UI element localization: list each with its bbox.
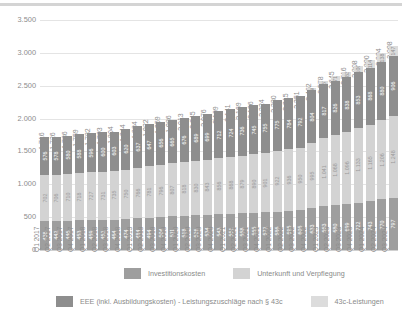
bar-segment[interactable]: 868 bbox=[226, 157, 235, 214]
bar-segment[interactable]: 138 bbox=[377, 53, 386, 62]
bar-segment[interactable]: 736 bbox=[238, 107, 247, 155]
bar-segment[interactable]: 1.133 bbox=[354, 128, 363, 202]
bar-segment[interactable]: 596 bbox=[87, 133, 96, 172]
bar-segment[interactable]: 792 bbox=[296, 96, 305, 148]
bar-segment[interactable]: 718 bbox=[75, 173, 84, 220]
bar-segment[interactable]: 1.206 bbox=[377, 120, 386, 199]
bar-column[interactable]: 1.716576702438 bbox=[40, 20, 49, 250]
bar-column[interactable]: 2.9941388801.206770 bbox=[377, 20, 386, 250]
bar-segment[interactable]: 818 bbox=[180, 162, 189, 216]
bar-segment[interactable]: 706 bbox=[52, 175, 61, 221]
bar-column[interactable]: 1.884637766484 bbox=[133, 20, 142, 250]
bar-column[interactable]: 2.169736879558 bbox=[238, 20, 247, 250]
bar-segment[interactable]: 689 bbox=[191, 116, 200, 161]
bar-column[interactable]: 1.844620750474 bbox=[121, 20, 130, 250]
bar-segment[interactable]: 588 bbox=[75, 134, 84, 173]
bar-segment[interactable]: 1.248 bbox=[389, 116, 398, 198]
bar-segment[interactable]: 879 bbox=[238, 156, 247, 214]
bar-column[interactable]: 2.8901148681.165743 bbox=[366, 20, 375, 250]
bar-column[interactable]: 1.959656796504 bbox=[156, 20, 165, 250]
bar-segment[interactable]: 890 bbox=[249, 154, 258, 212]
bar-column[interactable]: 1.736580710446 bbox=[63, 20, 72, 250]
bar-column[interactable]: 2.141724868551 bbox=[226, 20, 235, 250]
bar-column[interactable]: 2.196745890565 bbox=[249, 20, 258, 250]
bar-segment[interactable]: 781 bbox=[145, 166, 154, 217]
bar-segment[interactable]: 620 bbox=[121, 129, 130, 170]
bar-segment[interactable]: 712 bbox=[214, 111, 223, 158]
bar-column[interactable]: 2.280775922586 bbox=[273, 20, 282, 250]
bar-segment[interactable]: 995 bbox=[307, 143, 316, 208]
legend-item-investitionskosten[interactable]: Investitionskosten bbox=[124, 268, 205, 279]
bar-segment[interactable]: 656 bbox=[156, 122, 165, 165]
bar-segment[interactable]: 843 bbox=[203, 160, 212, 215]
bar-segment[interactable]: 665 bbox=[168, 120, 177, 164]
bar-column[interactable]: 1.922647781494 bbox=[145, 20, 154, 250]
bar-segment[interactable]: 1.068 bbox=[331, 135, 340, 205]
bar-segment[interactable]: 727 bbox=[87, 172, 96, 220]
bar-segment[interactable]: 710 bbox=[63, 174, 72, 221]
bar-segment[interactable]: 724 bbox=[226, 109, 235, 157]
bar-segment[interactable]: 880 bbox=[377, 62, 386, 120]
bar-segment[interactable]: 1.041 bbox=[319, 138, 328, 206]
bar-column[interactable]: 2.578578171.041663 bbox=[319, 20, 328, 250]
bar-column[interactable]: 2.315784936595 bbox=[284, 20, 293, 250]
bar-segment[interactable]: 901 bbox=[261, 153, 270, 212]
bar-segment[interactable]: 936 bbox=[284, 149, 293, 211]
bar-segment[interactable]: 735 bbox=[110, 171, 119, 219]
bar-segment[interactable]: 647 bbox=[145, 124, 154, 167]
bar-segment[interactable]: 731 bbox=[98, 172, 107, 220]
bar-segment[interactable]: 868 bbox=[366, 68, 375, 125]
bar-segment[interactable]: 950 bbox=[296, 148, 305, 210]
bar-segment[interactable]: 676 bbox=[180, 118, 189, 162]
bar-segment[interactable]: 766 bbox=[133, 168, 142, 218]
bar-segment[interactable]: 699 bbox=[203, 114, 212, 160]
bar-segment[interactable]: 745 bbox=[249, 105, 258, 154]
bar-column[interactable]: 1.793600731462 bbox=[98, 20, 107, 250]
bar-column[interactable]: 1.726578706442 bbox=[52, 20, 61, 250]
bar-segment[interactable]: 603 bbox=[110, 132, 119, 172]
bar-segment[interactable]: 830 bbox=[191, 161, 200, 216]
bar-column[interactable]: 2.716838381.096699 bbox=[342, 20, 351, 250]
bar-segment[interactable]: 826 bbox=[331, 81, 340, 135]
bar-segment[interactable]: 147 bbox=[389, 46, 398, 56]
bar-segment[interactable]: 817 bbox=[319, 84, 328, 138]
bar-column[interactable]: 1.986665807511 bbox=[168, 20, 177, 250]
bar-segment[interactable]: 114 bbox=[366, 60, 375, 67]
bar-column[interactable]: 2.224755901572 bbox=[261, 20, 270, 250]
legend-item-43c-leistungen[interactable]: 43c-Leistungen bbox=[311, 296, 384, 307]
bar-segment[interactable]: 1.096 bbox=[342, 132, 351, 204]
bar-column[interactable]: 2.045689830526 bbox=[191, 20, 200, 250]
bar-column[interactable]: 3.0981479061.248797 bbox=[389, 20, 398, 250]
bar-column[interactable]: 1.804603735464 bbox=[110, 20, 119, 250]
bar-column[interactable]: 1.782596727459 bbox=[87, 20, 96, 250]
bar-segment[interactable]: 637 bbox=[133, 126, 142, 168]
bar-segment[interactable]: 580 bbox=[63, 136, 72, 174]
bar-segment[interactable]: 838 bbox=[342, 77, 351, 132]
bar-segment[interactable]: 784 bbox=[284, 98, 293, 150]
bar-column[interactable]: 2.46230804995633 bbox=[307, 20, 316, 250]
bar-segment[interactable]: 922 bbox=[273, 151, 282, 212]
bar-column[interactable]: 2.351792950605 bbox=[296, 20, 305, 250]
bar-segment[interactable]: 750 bbox=[121, 170, 130, 219]
bar-segment[interactable]: 1.165 bbox=[366, 125, 375, 202]
bar-column[interactable]: 2.645718261.068680 bbox=[331, 20, 340, 250]
bar-segment[interactable]: 807 bbox=[168, 163, 177, 216]
bar-column[interactable]: 2.013676818518 bbox=[180, 20, 189, 250]
bar-segment[interactable]: 797 bbox=[389, 198, 398, 250]
legend-item-eee[interactable]: EEE (inkl. Ausbildungskosten) - Leistung… bbox=[56, 296, 283, 307]
bar-segment[interactable]: 906 bbox=[389, 56, 398, 116]
bar-column[interactable]: 1.759588718453 bbox=[75, 20, 84, 250]
bar-column[interactable]: 2.076699843534 bbox=[203, 20, 212, 250]
bar-segment[interactable]: 600 bbox=[98, 132, 107, 171]
bar-segment[interactable]: 775 bbox=[273, 100, 282, 151]
bar-column[interactable]: 2.109712856543 bbox=[214, 20, 223, 250]
bar-segment[interactable]: 755 bbox=[261, 104, 270, 154]
bar-segment[interactable]: 796 bbox=[156, 165, 165, 217]
legend-item-unterkunft-und-verpflegung[interactable]: Unterkunft und Verpflegung bbox=[233, 268, 345, 279]
bar-segment[interactable]: 702 bbox=[40, 175, 49, 221]
bar-segment[interactable]: 853 bbox=[354, 72, 363, 128]
bar-segment[interactable]: 856 bbox=[214, 158, 223, 214]
bar-segment[interactable]: 804 bbox=[307, 90, 316, 143]
bar-column[interactable]: 2.8081008531.133722 bbox=[354, 20, 363, 250]
bar-segment[interactable]: 576 bbox=[40, 137, 49, 175]
